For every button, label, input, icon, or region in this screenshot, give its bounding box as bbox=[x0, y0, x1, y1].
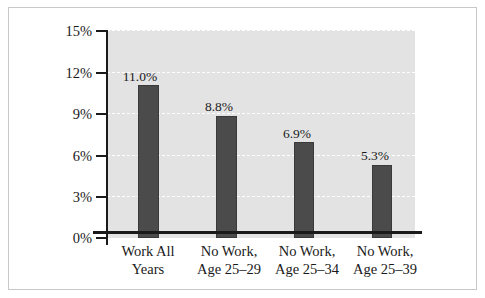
bar-value-label-work-all-years: 11.0% bbox=[108, 70, 172, 84]
y-tick-label-12: 12% bbox=[52, 66, 92, 81]
y-tick-9 bbox=[96, 113, 107, 115]
y-tick-6 bbox=[96, 155, 107, 157]
y-tick-label-15: 15% bbox=[52, 24, 92, 39]
bar-value-label-no-work-25-29: 8.8% bbox=[188, 100, 250, 114]
y-tick-3 bbox=[96, 196, 107, 198]
bar-value-label-no-work-25-34: 6.9% bbox=[266, 127, 328, 141]
y-axis-line bbox=[106, 30, 108, 245]
y-tick-0 bbox=[96, 237, 107, 239]
bar-no-work-25-29 bbox=[216, 116, 237, 238]
category-label-work-all-years: Work All Years bbox=[108, 243, 188, 278]
plot-area bbox=[107, 30, 415, 238]
bar-no-work-25-34 bbox=[294, 142, 314, 238]
category-label-line1: No Work, bbox=[279, 243, 336, 259]
bar-no-work-25-39 bbox=[372, 165, 392, 238]
bar-chart-figure: 15% 12% 9% 6% 3% 0% 11.0% 8.8% 6.9% 5.3%… bbox=[0, 0, 485, 298]
y-tick-label-9: 9% bbox=[52, 107, 92, 122]
x-axis-line bbox=[93, 231, 422, 234]
y-tick-12 bbox=[96, 72, 107, 74]
bar-work-all-years bbox=[138, 85, 159, 238]
category-label-line2: Years bbox=[108, 261, 188, 279]
y-tick-label-3: 3% bbox=[52, 190, 92, 205]
y-tick-label-6: 6% bbox=[52, 149, 92, 164]
bar-value-label-no-work-25-39: 5.3% bbox=[344, 149, 406, 163]
y-tick-label-0: 0% bbox=[52, 231, 92, 246]
y-tick-15 bbox=[96, 30, 107, 32]
category-label-line1: No Work, bbox=[357, 243, 414, 259]
category-label-line1: No Work, bbox=[201, 243, 258, 259]
gridline-15 bbox=[107, 30, 415, 31]
y-axis-tick-labels: 15% 12% 9% 6% 3% 0% bbox=[48, 0, 92, 298]
category-label-line2: Age 25–39 bbox=[339, 261, 431, 279]
category-label-no-work-25-39: No Work, Age 25–39 bbox=[339, 243, 431, 278]
category-label-line1: Work All bbox=[121, 243, 174, 259]
